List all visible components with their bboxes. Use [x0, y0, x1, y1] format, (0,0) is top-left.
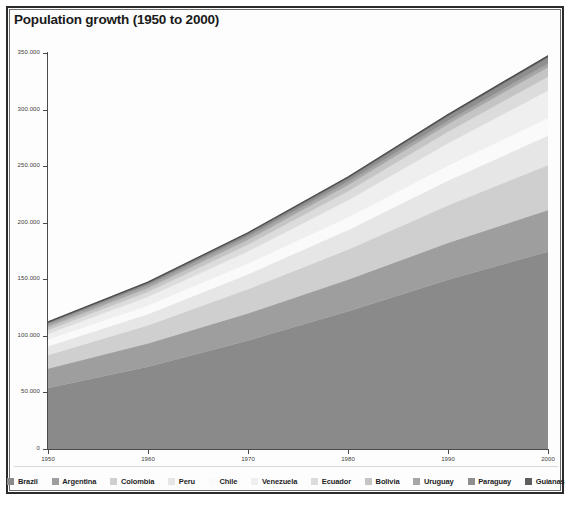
y-tick-mark: [43, 279, 47, 280]
y-tick-label: 350.000: [4, 49, 40, 55]
legend-item-uruguay[interactable]: Uruguay: [413, 477, 453, 486]
legend-swatch-icon: [413, 478, 420, 485]
y-tick-label: 100.000: [4, 332, 40, 338]
y-tick-mark: [43, 166, 47, 167]
legend-swatch-icon: [311, 478, 318, 485]
y-tick-mark: [43, 110, 47, 111]
y-tick-mark: [43, 336, 47, 337]
x-tick-label: 1970: [228, 456, 268, 462]
legend-swatch-icon: [365, 478, 372, 485]
y-tick-mark: [43, 449, 47, 450]
legend-item-label: Ecuador: [322, 477, 351, 486]
legend-item-label: Bolivia: [376, 477, 400, 486]
x-tick-mark: [448, 450, 449, 454]
legend-item-label: Uruguay: [424, 477, 454, 486]
legend-item-venezuela[interactable]: Venezuela: [251, 477, 297, 486]
legend-item-label: Venezuela: [262, 477, 297, 486]
legend-item-peru[interactable]: Peru: [168, 477, 195, 486]
x-tick-label: 1990: [428, 456, 468, 462]
legend-item-bolivia[interactable]: Bolivia: [365, 477, 399, 486]
page-title: Population growth (1950 to 2000): [14, 12, 219, 27]
legend-item-guianas[interactable]: Guianas: [525, 477, 564, 486]
x-tick-label: 1980: [328, 456, 368, 462]
y-tick-label: 150.000: [4, 275, 40, 281]
legend-swatch-icon: [7, 478, 14, 485]
legend-item-label: Colombia: [121, 477, 154, 486]
legend-item-chile[interactable]: Chile: [209, 477, 237, 486]
legend-item-label: Brazil: [18, 477, 38, 486]
legend-swatch-icon: [468, 478, 475, 485]
y-tick-mark: [43, 53, 47, 54]
legend-swatch-icon: [525, 478, 532, 485]
legend-item-label: Chile: [220, 477, 238, 486]
legend-item-argentina[interactable]: Argentina: [52, 477, 97, 486]
legend-item-label: Peru: [179, 477, 195, 486]
x-tick-label: 1950: [28, 456, 68, 462]
stacked-area-plot: [48, 53, 548, 449]
x-tick-mark: [148, 450, 149, 454]
x-tick-mark: [48, 450, 49, 454]
legend-item-brazil[interactable]: Brazil: [7, 477, 37, 486]
y-tick-label: 250.000: [4, 162, 40, 168]
x-axis-line: [47, 449, 549, 450]
legend-swatch-icon: [110, 478, 117, 485]
legend-item-paraguay[interactable]: Paraguay: [468, 477, 511, 486]
plot-area: [48, 53, 548, 449]
y-tick-label: 50.000: [4, 388, 40, 394]
chart-figure: Population growth (1950 to 2000) 050.000…: [0, 0, 572, 508]
x-tick-mark: [548, 450, 549, 454]
x-tick-label: 1960: [128, 456, 168, 462]
legend-item-colombia[interactable]: Colombia: [110, 477, 154, 486]
legend-separator: [14, 466, 558, 467]
y-tick-mark: [43, 392, 47, 393]
chart-legend: BrazilArgentinaColombiaPeruChileVenezuel…: [16, 472, 556, 490]
legend-item-ecuador[interactable]: Ecuador: [311, 477, 351, 486]
legend-swatch-icon: [168, 478, 175, 485]
legend-item-label: Paraguay: [478, 477, 511, 486]
legend-swatch-icon: [52, 478, 59, 485]
legend-item-label: Argentina: [62, 477, 96, 486]
legend-swatch-icon: [209, 478, 216, 485]
x-tick-mark: [348, 450, 349, 454]
x-tick-mark: [248, 450, 249, 454]
y-tick-label: 300.000: [4, 106, 40, 112]
x-tick-label: 2000: [528, 456, 568, 462]
y-tick-mark: [43, 223, 47, 224]
legend-item-label: Guianas: [536, 477, 565, 486]
y-tick-label: 0: [4, 445, 40, 451]
y-tick-label: 200.000: [4, 219, 40, 225]
legend-swatch-icon: [251, 478, 258, 485]
